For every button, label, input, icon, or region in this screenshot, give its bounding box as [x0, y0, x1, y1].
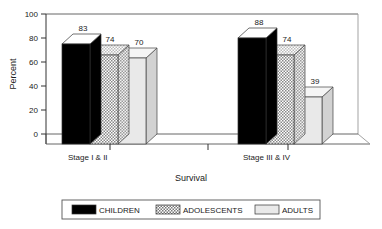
- x-category-label: Stage I & II: [68, 153, 108, 162]
- data-label-g2-adults: 39: [311, 77, 320, 86]
- legend-label-adolescents: ADOLESCENTS: [183, 206, 243, 215]
- legend-label-children: CHILDREN: [99, 206, 140, 215]
- legend-swatch-children: [72, 205, 96, 214]
- y-tick-label: 20: [29, 106, 38, 115]
- data-label-g2-adolescents: 74: [283, 35, 292, 44]
- y-tick-0: 0: [34, 130, 46, 139]
- x-axis-title: Survival: [175, 173, 207, 183]
- y-tick-label: 100: [25, 10, 39, 19]
- data-label-g1-children: 83: [79, 24, 88, 33]
- y-tick-label: 80: [29, 34, 38, 43]
- legend-item-children[interactable]: CHILDREN: [72, 205, 140, 215]
- x-axis: Stage I & II Stage III & IV: [68, 144, 291, 162]
- bar-g1-children: [62, 34, 101, 144]
- legend-swatch-adults: [255, 205, 279, 214]
- data-label-g1-adults: 70: [135, 38, 144, 47]
- data-label-g2-children: 88: [255, 18, 264, 27]
- bar-g2-children: [238, 28, 277, 144]
- y-tick-80: 80: [29, 34, 46, 43]
- y-axis-title: Percent: [8, 58, 18, 90]
- y-tick-label: 40: [29, 82, 38, 91]
- y-tick-label: 60: [29, 58, 38, 67]
- legend-label-adults: ADULTS: [282, 206, 313, 215]
- y-tick-100: 100: [25, 10, 46, 19]
- data-label-g1-adolescents: 74: [106, 35, 115, 44]
- y-tick-20: 20: [29, 106, 46, 115]
- x-category-label: Stage III & IV: [243, 153, 291, 162]
- legend-swatch-adolescents: [156, 205, 180, 214]
- y-tick-40: 40: [29, 82, 46, 91]
- chart-legend: CHILDREN ADOLESCENTS ADULTS: [62, 200, 320, 219]
- chart-canvas: 100 80 60 40 20 0 Perce: [0, 0, 382, 229]
- legend-item-adolescents[interactable]: ADOLESCENTS: [156, 205, 243, 215]
- y-tick-60: 60: [29, 58, 46, 67]
- bar-chart-figure: 100 80 60 40 20 0 Perce: [0, 0, 382, 229]
- y-axis: 100 80 60 40 20 0: [25, 10, 46, 139]
- y-tick-label: 0: [34, 130, 39, 139]
- legend-item-adults[interactable]: ADULTS: [255, 205, 313, 215]
